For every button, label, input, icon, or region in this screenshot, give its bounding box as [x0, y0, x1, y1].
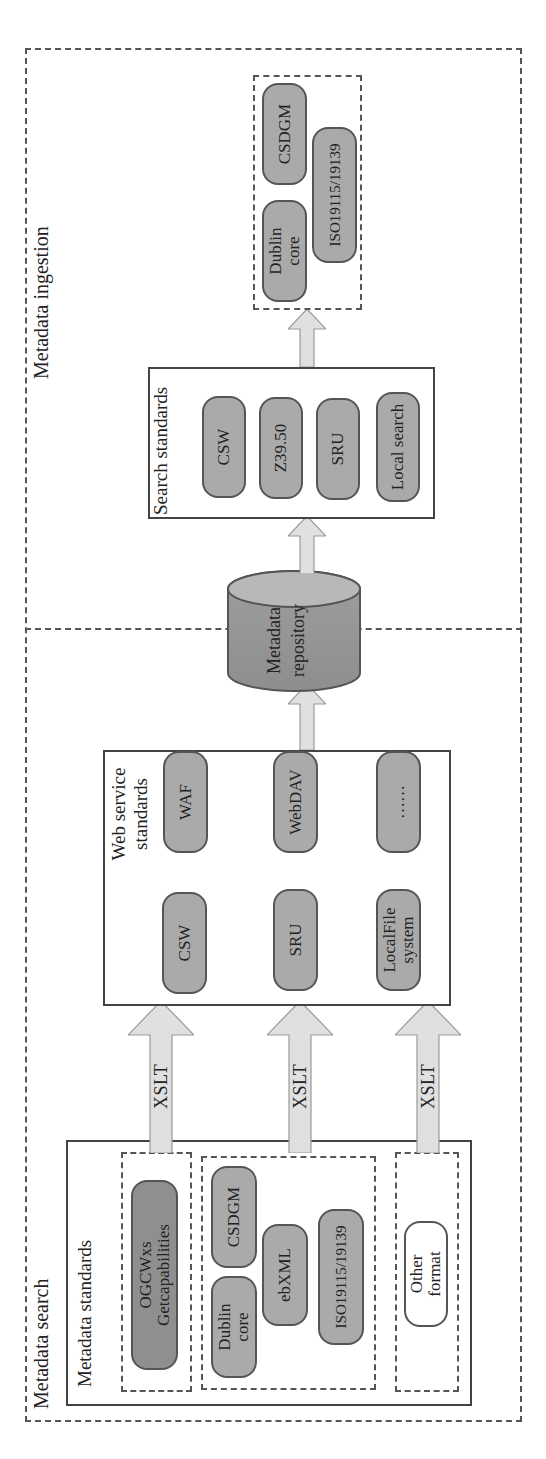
web-service-standards-title: Web service standards [108, 759, 152, 869]
pill-output-csdgm: CSDGM [262, 83, 307, 185]
section-label-search: Metadata search [30, 1279, 53, 1409]
pill-ws-more: …… [376, 751, 421, 853]
pill-ws-sru: SRU [273, 889, 318, 991]
pill-search-csw: CSW [202, 396, 246, 498]
xslt-label-1: XSLT [151, 1064, 172, 1109]
pill-search-sru: SRU [316, 398, 360, 500]
pill-dublin-core: Dublin core [211, 1276, 257, 1378]
metadata-standards-title: Metadata standards [74, 1240, 96, 1387]
pill-search-z3950: Z39.50 [259, 397, 303, 499]
pill-output-iso19115: ISO19115/19139 [312, 127, 357, 263]
search-standards-title: Search standards [150, 387, 172, 515]
xslt-label-2: XSLT [290, 1064, 311, 1109]
pill-ogcwxs-getcapabilities: OGCWxs Getcapabilities [131, 1180, 178, 1370]
xslt-label-3: XSLT [418, 1064, 439, 1109]
pill-ws-webdav: WebDAV [273, 751, 318, 853]
pill-ebxml: ebXML [262, 1224, 308, 1326]
arrow-web-to-repository [288, 684, 326, 750]
pill-ws-csw: CSW [162, 892, 207, 994]
pill-ws-waf: WAF [163, 751, 208, 853]
diagram-canvas: Metadata ingestion Metadata search Metad… [0, 0, 546, 1459]
pill-search-local-search: Local search [376, 392, 420, 502]
pill-iso19115: ISO19115/19139 [318, 1209, 364, 1345]
pill-output-dublin-core: Dublin core [262, 200, 307, 302]
arrow-search-to-output [288, 309, 326, 367]
arrow-repository-to-search [288, 516, 326, 574]
pill-ws-localfile-system: LocalFile system [376, 889, 421, 991]
pill-other-format: Other format [404, 1221, 448, 1327]
section-label-ingestion: Metadata ingestion [30, 226, 53, 379]
pill-csdgm: CSDGM [211, 1166, 257, 1268]
metadata-repository-label: Metadata repository [262, 588, 310, 693]
